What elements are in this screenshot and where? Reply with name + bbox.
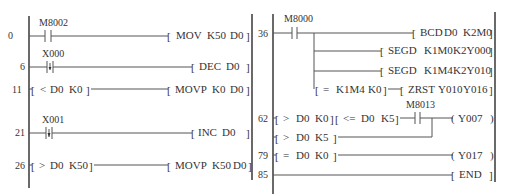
svg-text:[: [ xyxy=(400,84,404,96)
rung-79: 79 [ = D0 K0 ] ( Y017 ) xyxy=(258,149,494,162)
instruction-box: [ MOVP K0 D0 ] xyxy=(167,83,250,96)
svg-text:D0: D0 xyxy=(50,159,64,171)
step-number: 85 xyxy=(258,169,268,180)
instruction-box: [ SEGD K1M4 K2Y010 ] xyxy=(380,64,493,77)
svg-text:K1M4: K1M4 xyxy=(336,83,365,95)
step-number: 62 xyxy=(258,113,268,124)
svg-text:=: = xyxy=(323,83,329,95)
svg-text:D0: D0 xyxy=(226,60,240,72)
normally-open-contact-icon xyxy=(292,27,297,39)
rung-0: 0 M8002 [ MOV K50 D0 ] xyxy=(8,17,250,42)
svg-text:[: [ xyxy=(167,160,171,172)
svg-text:DEC: DEC xyxy=(199,60,221,72)
svg-text:K2Y010: K2Y010 xyxy=(453,64,491,76)
contact-label: M8013 xyxy=(406,99,435,110)
svg-text:>: > xyxy=(283,112,289,124)
svg-text:K2M0: K2M0 xyxy=(463,26,492,38)
compare-box: [ = D0 K0 ] xyxy=(275,149,337,162)
svg-text:]: ] xyxy=(489,65,493,77)
compare-box: [ > D0 K5 ] xyxy=(275,131,337,144)
rung-6: 6 X000 [ DEC D0 ] xyxy=(20,48,250,73)
compare-box: [ < D0 K0 ] xyxy=(31,83,90,96)
svg-text:K1M0: K1M0 xyxy=(424,44,453,56)
svg-text:[: [ xyxy=(167,84,171,96)
svg-text:]: ] xyxy=(246,30,250,42)
svg-text:[: [ xyxy=(380,65,384,77)
rising-edge-contact-icon xyxy=(46,127,52,139)
svg-text:K0: K0 xyxy=(212,83,226,95)
contact-label: X000 xyxy=(42,48,64,59)
svg-text:K50: K50 xyxy=(207,29,226,41)
svg-text:(: ( xyxy=(451,112,455,125)
step-number: 11 xyxy=(12,84,22,95)
rung-26: 26 [ > D0 K50 ] [ MOVP K50 D0 ] xyxy=(15,159,252,172)
svg-text:D0: D0 xyxy=(296,149,310,161)
svg-text:]: ] xyxy=(489,27,493,39)
contact-label: M8002 xyxy=(39,17,68,28)
compare-box: [ <= D0 K5 ] xyxy=(335,112,399,125)
svg-text:]: ] xyxy=(489,169,493,181)
instruction-box: [ BCD D0 K2M0 ] xyxy=(412,26,493,39)
svg-text:SEGD: SEGD xyxy=(388,44,417,56)
instruction-box: [ DEC D0 ] xyxy=(191,60,250,73)
svg-text:D0: D0 xyxy=(230,29,244,41)
svg-text:K0: K0 xyxy=(69,83,83,95)
step-number: 26 xyxy=(15,160,25,171)
svg-text:<: < xyxy=(40,83,46,95)
svg-text:ZRST: ZRST xyxy=(408,83,435,95)
svg-text:D0: D0 xyxy=(444,26,458,38)
svg-text:[: [ xyxy=(412,27,416,39)
falling-edge-contact-icon xyxy=(47,61,53,73)
svg-text:K5: K5 xyxy=(315,131,329,143)
svg-text:BCD: BCD xyxy=(420,26,443,38)
svg-text:Y017: Y017 xyxy=(458,149,483,161)
svg-text:K50: K50 xyxy=(69,159,88,171)
normally-open-contact-icon xyxy=(415,112,420,124)
svg-text:(: ( xyxy=(451,149,455,162)
instruction-box: [ MOV K50 D0 ] xyxy=(167,29,250,42)
svg-text:END: END xyxy=(459,168,482,180)
svg-text:]: ] xyxy=(246,61,250,73)
svg-text:]: ] xyxy=(330,113,334,125)
svg-text:]: ] xyxy=(246,84,250,96)
svg-text:[: [ xyxy=(315,84,319,96)
svg-text:]: ] xyxy=(89,160,93,172)
step-number: 79 xyxy=(258,150,268,161)
svg-text:]: ] xyxy=(383,84,387,96)
instruction-box: [ SEGD K1M0 K2Y000 ] xyxy=(380,44,493,57)
svg-text:Y016: Y016 xyxy=(463,83,488,95)
output-coil: ( Y007 ) xyxy=(451,112,494,125)
svg-text:): ) xyxy=(490,149,494,162)
svg-text:[: [ xyxy=(167,30,171,42)
instruction-box: [ INC D0 ] xyxy=(191,126,250,139)
rung-21: 21 X001 [ INC D0 ] xyxy=(15,114,250,139)
svg-text:D0: D0 xyxy=(230,83,244,95)
contact-label: M8000 xyxy=(284,13,313,24)
svg-text:SEGD: SEGD xyxy=(388,64,417,76)
svg-text:MOV: MOV xyxy=(176,29,202,41)
svg-text:[: [ xyxy=(31,84,35,96)
step-number: 36 xyxy=(258,28,268,39)
svg-text:K2Y000: K2Y000 xyxy=(453,44,491,56)
svg-text:MOVP: MOVP xyxy=(175,159,207,171)
svg-text:D0: D0 xyxy=(50,83,64,95)
rung-36: 36 M8000 [ BCD D0 K2M0 ] [ SEGD K1M0 K2Y… xyxy=(258,13,493,96)
svg-text:[: [ xyxy=(275,113,279,125)
svg-text:K1M4: K1M4 xyxy=(424,64,453,76)
svg-text:>: > xyxy=(39,159,45,171)
svg-text:]: ] xyxy=(489,45,493,57)
svg-text:D0: D0 xyxy=(222,126,236,138)
svg-text:K0: K0 xyxy=(315,149,329,161)
svg-text:D0: D0 xyxy=(296,131,310,143)
svg-text:[: [ xyxy=(275,150,279,162)
svg-text:=: = xyxy=(283,149,289,161)
svg-text:[: [ xyxy=(191,127,195,139)
svg-text:[: [ xyxy=(31,160,35,172)
svg-text:[: [ xyxy=(191,61,195,73)
svg-text:Y010: Y010 xyxy=(438,83,463,95)
compare-box: [ > D0 K0 ] xyxy=(275,112,334,125)
normally-open-contact-icon xyxy=(45,30,51,42)
svg-text:]: ] xyxy=(86,84,90,96)
svg-text:MOVP: MOVP xyxy=(175,83,207,95)
svg-text:[: [ xyxy=(275,132,279,144)
